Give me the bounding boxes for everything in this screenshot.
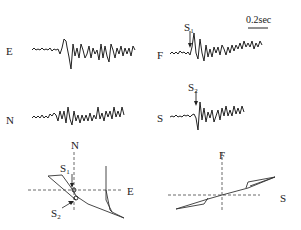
pm-axis-label-n: N — [71, 140, 79, 151]
pm-axis-label-f: F — [219, 150, 225, 161]
trace-n — [32, 107, 124, 125]
arrival-label-s2: S2 — [188, 82, 198, 97]
pm-s2-subscript: 2 — [57, 213, 61, 221]
arrival-s1-subscript: 1 — [190, 27, 194, 35]
channel-label-e: E — [6, 46, 13, 57]
trace-s — [170, 102, 244, 130]
particle-motion-fs — [176, 177, 275, 209]
pm-label-s1: S1 — [60, 163, 70, 178]
pm-s1-subscript: 1 — [66, 168, 70, 176]
arrow-pm-s2-icon — [68, 201, 74, 205]
pm-label-s2: S2 — [51, 208, 61, 223]
marker-s2-icon — [74, 196, 78, 200]
trace-e — [32, 39, 135, 69]
pm-axis-label-s: S — [280, 193, 286, 204]
trace-f — [170, 33, 262, 61]
channel-label-n: N — [6, 115, 14, 126]
arrival-label-s1: S1 — [184, 22, 194, 37]
arrow-s1-icon — [188, 43, 192, 48]
seismogram-figure — [0, 0, 301, 230]
channel-label-s: S — [157, 113, 163, 124]
arrow-s2-icon — [194, 101, 198, 106]
channel-label-f: F — [157, 50, 163, 61]
pm-axis-label-e: E — [127, 186, 134, 197]
arrival-s2-subscript: 2 — [194, 87, 198, 95]
scale-bar-label: 0.2sec — [246, 14, 271, 25]
